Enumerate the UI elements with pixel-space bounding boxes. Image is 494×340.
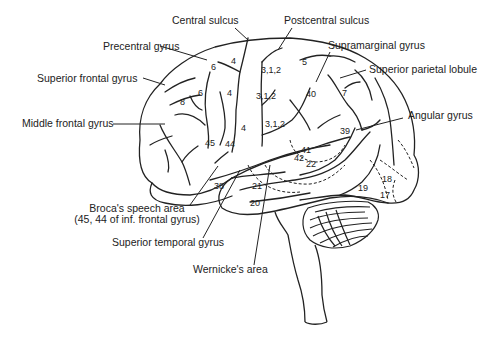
brain-diagram: Central sulcus Postcentral sulcus Precen…	[0, 0, 494, 340]
area-4-top: 4	[231, 57, 236, 66]
lateral-fissure	[232, 137, 350, 178]
area-3-1-2-top: 3,1,2	[261, 66, 281, 75]
area-44: 44	[225, 140, 235, 149]
area-3-1-2-mid: 3,1,2	[256, 92, 276, 101]
label-superior-parietal-lobule: Superior parietal lobule	[369, 64, 477, 75]
leader-wernickes-area	[254, 165, 270, 265]
area-19: 19	[358, 184, 368, 193]
label-brocas-area-line2: (45, 44 of inf. frontal gyrus)	[72, 214, 202, 225]
label-superior-temporal-gyrus: Superior temporal gyrus	[112, 237, 224, 248]
label-postcentral-sulcus: Postcentral sulcus	[284, 15, 369, 26]
cerebellum-outline	[303, 201, 379, 248]
area-38: 38	[214, 182, 224, 191]
area-20: 20	[250, 199, 260, 208]
label-brocas-area: Broca's speech area (45, 44 of inf. fron…	[72, 203, 202, 225]
area-5: 5	[302, 58, 307, 67]
area-40: 40	[306, 90, 316, 99]
area-6-mid: 6	[198, 89, 203, 98]
area-18: 18	[382, 175, 392, 184]
area-45: 45	[205, 139, 215, 148]
area-39: 39	[340, 127, 350, 136]
area-7: 7	[342, 89, 347, 98]
brainstem-outline	[275, 212, 305, 322]
area-6-top: 6	[211, 63, 216, 72]
leader-central-sulcus	[235, 28, 248, 40]
area-17: 17	[380, 191, 390, 200]
label-supramarginal-gyrus: Supramarginal gyrus	[328, 40, 425, 51]
area-21: 21	[252, 182, 262, 191]
area-3-1-2-low: 3,1,2	[265, 120, 285, 129]
area-42: 42	[294, 154, 304, 163]
area-4-low: 4	[241, 124, 246, 133]
label-angular-gyrus: Angular gyrus	[408, 110, 473, 121]
label-wernickes-area: Wernicke's area	[193, 264, 268, 275]
brain-illustration	[0, 0, 494, 340]
leader-postcentral-sulcus	[278, 28, 292, 50]
area-4-mid: 4	[227, 89, 232, 98]
label-middle-frontal-gyrus: Middle frontal gyrus	[22, 118, 114, 129]
leader-supramarginal-gyrus	[316, 52, 330, 82]
area-8: 8	[180, 98, 185, 107]
label-central-sulcus: Central sulcus	[172, 15, 239, 26]
label-precentral-gyrus: Precentral gyrus	[103, 41, 179, 52]
label-superior-frontal-gyrus: Superior frontal gyrus	[37, 73, 137, 84]
area-22: 22	[306, 160, 316, 169]
